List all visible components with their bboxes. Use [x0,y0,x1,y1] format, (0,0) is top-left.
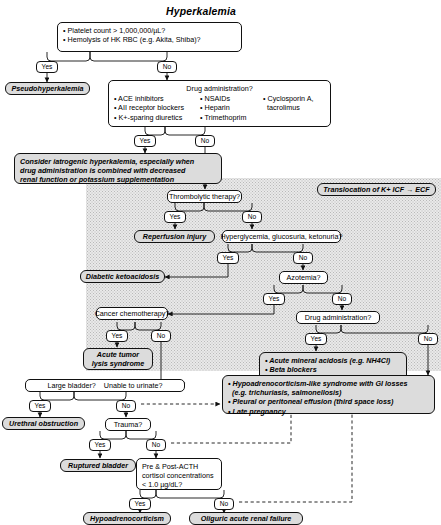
yes-label-initial[interactable]: Yes [36,61,58,73]
node-iatrogenic-hyperkalemia[interactable]: Consider iatrogenic hyperkalemia, especi… [14,153,222,184]
acth-line-3: < 1.0 µg/dL? [142,480,216,489]
node-acute-tumor-lysis-syndrome[interactable]: Acute tumor lysis syndrome [83,348,153,370]
hypo-like-1b: (e.g. trichuriasis, salmonellosis) [228,388,429,397]
initial-line-2: • Hemolysis of HK RBC (e.g. Akita, Shiba… [63,35,236,44]
hypo-like-2: • Pleural or peritoneal effusion (third … [228,397,429,406]
node-initial-screening[interactable]: • Platelet count > 1,000,000/µL? • Hemol… [57,22,242,52]
drug-col2-item3: • Trimethoprim [200,113,263,122]
hypo-like-3: • Late pregnancy [228,407,429,416]
yes-label-chemo[interactable]: Yes [106,330,128,342]
no-label-initial[interactable]: No [157,61,177,73]
node-hypoadrenocorticism[interactable]: Hypoadrenocorticism [83,512,171,525]
drug-col3-item2: tacrolimus [263,103,327,112]
yes-label-drug-2[interactable]: Yes [305,333,327,345]
initial-line-1: • Platelet count > 1,000,000/µL? [63,26,236,35]
node-drug-administration-2[interactable]: Drug administration? [296,311,380,324]
node-hyperglycemia-glucosuria-ketonuria[interactable]: Hyperglycemia, glucosuria, ketonuria? [222,230,341,243]
no-label-chemo[interactable]: No [151,330,171,342]
node-oliguric-acute-renal-failure[interactable]: Oliguric acute renal failure [189,512,303,525]
no-label-trauma[interactable]: No [146,439,166,451]
bladder-part-2: Unable to urinate? [104,381,163,390]
node-urethral-obstruction[interactable]: Urethral obstruction [2,417,85,430]
iatrogenic-line-3: renal function or potassium supplementat… [20,175,216,184]
drug-admin-top-header: Drug administration? [114,84,325,93]
node-cancer-chemotherapy[interactable]: Cancer chemotherapy? [96,307,168,320]
iatrogenic-line-1: Consider iatrogenic hyperkalemia, especi… [20,157,216,166]
node-large-bladder-unable-to-urinate[interactable]: Large bladder? Unable to urinate? [25,379,185,392]
tumor-lysis-line-2: lysis syndrome [92,359,144,368]
chart-title: Hyperkalemia [166,6,236,17]
node-trauma[interactable]: Trauma? [105,418,151,431]
drug-col1-item3: • K+-sparing diuretics [114,113,200,122]
node-thrombolytic-therapy[interactable]: Thrombolytic therapy? [167,190,242,203]
drug-col3-item1: • Cyclosporin A, [263,94,327,103]
node-translocation-header: Translocation of K+ ICF → ECF [317,183,436,196]
node-pseudohyperkalemia[interactable]: Pseudohyperkalemia [5,82,90,95]
yes-label-thrombolytic[interactable]: Yes [164,211,186,223]
drug-col1-item1: • ACE inhibitors [114,94,200,103]
yes-label-trauma[interactable]: Yes [89,439,111,451]
tumor-lysis-line-1: Acute tumor [97,350,139,359]
iatrogenic-line-2: drug administration is combined with dec… [20,166,216,175]
yes-label-drug-top[interactable]: Yes [134,135,156,147]
drug-cause-1: • Acute mineral acidosis (e.g. NH4Cl) [265,356,401,365]
yes-label-hyperglycemia[interactable]: Yes [217,252,239,264]
node-acth-cortisol-test[interactable]: Pre & Post-ACTH cortisol concentrations … [136,458,222,490]
acth-line-1: Pre & Post-ACTH [142,462,216,471]
node-hypoadrenocorticism-like-syndrome[interactable]: • Hypoadrenocorticism-like syndrome with… [222,375,435,414]
bladder-part-1: Large bladder? [47,381,95,390]
node-azotemia[interactable]: Azotemia? [279,271,328,284]
no-label-bladder[interactable]: No [116,400,136,412]
no-label-azotemia[interactable]: No [332,293,352,305]
no-label-acth[interactable]: No [214,498,234,510]
no-label-thrombolytic[interactable]: No [242,211,262,223]
node-drug-administration-top[interactable]: Drug administration? • ACE inhibitors • … [108,80,331,127]
yes-label-bladder[interactable]: Yes [29,400,51,412]
yes-label-azotemia[interactable]: Yes [263,293,285,305]
node-reperfusion-injury[interactable]: Reperfusion injury [134,230,215,243]
no-label-drug-top[interactable]: No [195,135,215,147]
acth-line-2: cortisol concentrations [142,471,216,480]
node-diabetic-ketoacidosis[interactable]: Diabetic ketoacidosis [80,270,165,283]
drug-col2-item1: • NSAIDs [200,94,263,103]
drug-col2-item2: • Heparin [200,103,263,112]
hypo-like-1: • Hypoadrenocorticism-like syndrome with… [228,379,429,388]
node-ruptured-bladder[interactable]: Ruptured bladder [60,459,136,472]
drug-col1-item2: • AII receptor blockers [114,103,200,112]
no-label-drug-2[interactable]: No [418,333,438,345]
drug-cause-2: • Beta blockers [265,365,401,374]
no-label-hyperglycemia[interactable]: No [293,252,313,264]
yes-label-acth[interactable]: Yes [129,498,151,510]
